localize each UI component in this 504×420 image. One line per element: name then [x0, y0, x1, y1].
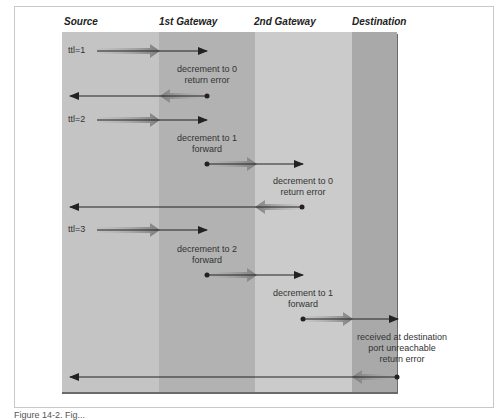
arrow-ttl1-forward [97, 44, 207, 58]
annotation-line: decrement to 0 [172, 64, 242, 75]
annotation-line: port unreachable [352, 343, 452, 354]
annotation-gw1-ttl1: decrement to 0 return error [172, 64, 242, 86]
annotation-line: return error [172, 75, 242, 86]
arrow-ttl3-forward [97, 223, 207, 237]
arrow-ttl1-return [70, 89, 210, 103]
arrow-ttl3-gw2-forward [301, 312, 399, 326]
ttl-label-1: ttl=1 [68, 45, 85, 55]
annotation-line: forward [268, 299, 338, 310]
annotation-gw1-ttl2: decrement to 1 forward [172, 133, 242, 155]
annotation-line: return error [268, 187, 338, 198]
annotation-line: forward [172, 144, 242, 155]
ttl-label-3: ttl=3 [68, 224, 85, 234]
arrow-ttl3-return [70, 370, 400, 384]
annotation-gw2-ttl3: decrement to 1 forward [268, 288, 338, 310]
annotation-line: decrement to 0 [268, 176, 338, 187]
annotation-line: forward [172, 255, 242, 266]
annotation-destination-ttl3: received at destination port unreachable… [352, 332, 452, 365]
arrow-ttl2-forward [97, 113, 207, 127]
annotation-line: return error [352, 354, 452, 365]
arrow-ttl2-return [70, 200, 305, 214]
annotation-line: decrement to 1 [172, 133, 242, 144]
annotation-line: decrement to 1 [268, 288, 338, 299]
annotation-gw1-ttl3: decrement to 2 forward [172, 244, 242, 266]
annotation-gw2-ttl2: decrement to 0 return error [268, 176, 338, 198]
arrow-ttl2-gw1-forward [205, 157, 304, 171]
annotation-line: received at destination [352, 332, 452, 343]
annotation-line: decrement to 2 [172, 244, 242, 255]
figure-caption: Figure 14-2. Fig... [14, 410, 85, 420]
arrow-ttl3-gw1-forward [205, 268, 304, 282]
ttl-label-2: ttl=2 [68, 114, 85, 124]
